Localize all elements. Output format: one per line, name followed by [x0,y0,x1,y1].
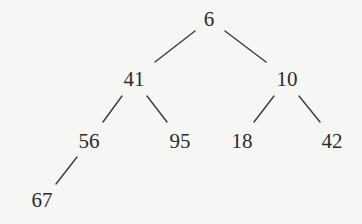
tree-node-41: 41 [124,69,145,90]
edge-41-56 [103,96,122,122]
edge-6-10 [225,31,266,62]
tree-node-56: 56 [79,131,100,152]
tree-node-42: 42 [322,131,343,152]
tree-node-67: 67 [32,190,53,211]
tree-edges [0,0,362,224]
edge-56-67 [56,157,77,184]
tree-node-18: 18 [232,131,253,152]
edge-10-42 [299,96,320,122]
tree-node-6: 6 [204,9,215,30]
tree-node-95: 95 [170,131,191,152]
edge-6-41 [155,31,195,62]
edge-10-18 [254,96,274,122]
edge-41-95 [147,96,167,122]
tree-node-10: 10 [277,69,298,90]
